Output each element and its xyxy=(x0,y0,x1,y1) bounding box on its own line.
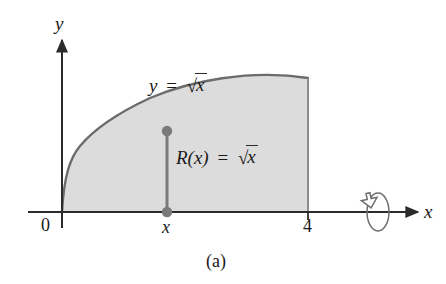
radius-equation-radicand: x xyxy=(246,145,257,167)
origin-tick-label: 0 xyxy=(41,216,50,234)
figure-container: y x 0 x 4 y = √x R(x) = √x (a) xyxy=(0,0,446,284)
radius-bottom-point-marker xyxy=(162,207,172,217)
x-tick-label-x: x xyxy=(162,218,170,236)
x-tick-label-4: 4 xyxy=(303,217,312,235)
curve-equation-lhs: y xyxy=(149,75,157,96)
radius-equation-equals: = xyxy=(217,147,228,168)
curve-equation-equals: = xyxy=(166,75,177,96)
figure-caption: (a) xyxy=(206,252,226,270)
radius-equation-lhs: R(x) xyxy=(176,147,209,168)
radius-equation-label: R(x) = √x xyxy=(176,148,258,167)
y-axis-label: y xyxy=(55,14,63,33)
radius-equation-radical: √x xyxy=(237,148,258,167)
curve-equation-radical: √x xyxy=(186,76,207,95)
x-axis-label: x xyxy=(424,202,432,221)
curve-equation-label: y = √x xyxy=(149,76,207,95)
radius-top-point-marker xyxy=(162,126,172,136)
curve-equation-radicand: x xyxy=(195,73,206,95)
figure-graphic xyxy=(0,0,446,284)
